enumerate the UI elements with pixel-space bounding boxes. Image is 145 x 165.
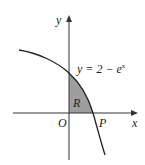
curve-equation-text: y = 2 − e [77, 62, 122, 76]
curve-equation-label: y = 2 − ex [77, 63, 125, 75]
diagram: y x O P R y = 2 − ex [0, 0, 145, 165]
graph-canvas [0, 0, 145, 165]
x-axis-label: x [132, 117, 137, 129]
origin-label: O [58, 117, 67, 129]
region-r-label: R [73, 97, 80, 109]
y-axis-label: y [56, 14, 61, 26]
curve-equation-exponent: x [122, 62, 126, 70]
point-p-label: P [99, 117, 106, 129]
y-axis-arrow-icon [66, 15, 72, 22]
